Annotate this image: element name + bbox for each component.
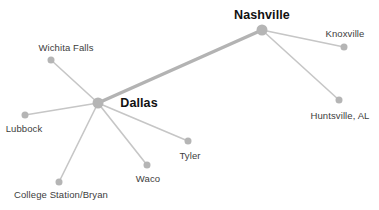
node-label-waco: Waco	[136, 173, 160, 184]
node-waco	[144, 162, 151, 169]
node-label-college-station: College Station/Bryan	[14, 189, 108, 200]
graph-canvas	[0, 0, 379, 210]
node-label-huntsville: Huntsville, AL	[311, 110, 370, 121]
node-label-wichita-falls: Wichita Falls	[38, 42, 93, 53]
node-lubbock	[22, 112, 29, 119]
node-label-lubbock: Lubbock	[6, 123, 43, 134]
node-huntsville	[336, 97, 343, 104]
edge-nashville-huntsville	[262, 30, 339, 100]
node-label-knoxville: Knoxville	[326, 28, 365, 39]
node-tyler	[185, 138, 192, 145]
node-wichita-falls	[48, 57, 55, 64]
edge-dallas-nashville	[98, 30, 262, 103]
network-diagram: DallasNashvilleWichita FallsLubbockColle…	[0, 0, 379, 210]
edge-dallas-waco	[98, 103, 147, 165]
node-label-dallas: Dallas	[120, 96, 157, 110]
node-nashville	[257, 25, 268, 36]
node-label-tyler: Tyler	[179, 150, 200, 161]
node-college-station	[56, 179, 63, 186]
node-dallas	[93, 98, 104, 109]
edge-dallas-college-station	[59, 103, 98, 182]
node-knoxville	[341, 44, 348, 51]
edge-dallas-wichita-falls	[51, 60, 98, 103]
edge-dallas-lubbock	[25, 103, 98, 115]
node-label-nashville: Nashville	[234, 8, 290, 22]
